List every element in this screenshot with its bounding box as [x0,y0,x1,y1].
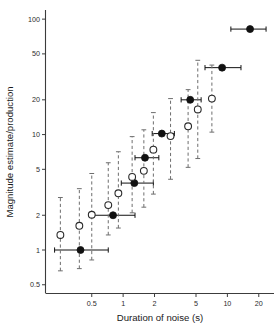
x-tick-label: 20 [255,299,263,308]
y-tick-label: 0.5 [30,280,40,289]
scatter-plot: 0.5125102050100 0.51251020 Duration of n… [0,0,280,332]
data-point-open [57,232,64,239]
data-point-open [140,167,147,174]
data-points [57,26,254,254]
y-tick-label: 5 [36,165,40,174]
data-point-filled [247,26,254,33]
x-tick-label: 2 [153,299,157,308]
data-point-open [115,190,122,197]
data-point-open [194,106,201,113]
x-tick-label: 0.5 [87,299,97,308]
data-point-filled [77,247,84,254]
x-axis-title: Duration of noise (s) [117,312,203,323]
data-point-open [88,211,95,218]
data-point-open [150,146,157,153]
data-point-filled [158,130,165,137]
y-tick-label: 20 [32,95,40,104]
data-point-filled [141,154,148,161]
x-tick-label: 10 [223,299,231,308]
y-axis-title: Magnitude estimate/production [4,86,15,217]
data-point-open [76,222,83,229]
data-point-filled [187,96,194,103]
x-tick-label: 5 [194,299,198,308]
y-tick-label: 50 [32,49,40,58]
data-point-open [185,123,192,130]
x-tick-label: 1 [121,299,125,308]
y-axis-ticks: 0.5125102050100 [28,15,46,290]
error-bars [55,26,266,270]
data-point-open [167,133,174,140]
data-point-open [105,202,112,209]
figure-container: 0.5125102050100 0.51251020 Duration of n… [0,0,280,332]
y-tick-label: 1 [36,246,40,255]
data-point-open [208,95,215,102]
x-axis-ticks: 0.51251020 [87,294,263,309]
y-tick-label: 100 [28,15,40,24]
y-tick-label: 10 [32,130,40,139]
data-point-open [129,173,136,180]
data-point-filled [219,64,226,71]
data-point-filled [110,212,117,219]
y-tick-label: 2 [36,211,40,220]
